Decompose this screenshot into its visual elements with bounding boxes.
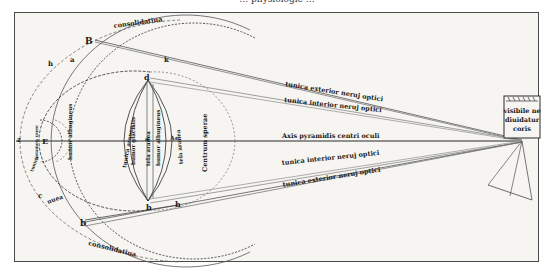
label-consolidativa-top: consolidatiua — [113, 15, 164, 30]
label-tunica-small: tunica — [29, 156, 39, 173]
point-b-lens: b — [146, 202, 152, 212]
point-z-axis: z — [17, 135, 21, 144]
label-tela-aranea-1: tela aranea — [145, 131, 151, 166]
point-h-upper: h — [48, 59, 53, 68]
label-ray-5: tunica exterior neruj optici — [282, 166, 381, 189]
eye-diagram: B k h a d b h b c E a A e z consolidatiu… — [0, 0, 554, 277]
label-humor-albugineus-left: humor albugineus — [67, 104, 74, 160]
point-b-lower: b — [80, 218, 86, 228]
label-humor-albugineus-inner: humor albugineus — [155, 110, 162, 166]
point-h-lower: h — [175, 199, 181, 209]
point-c-lower: c — [38, 191, 42, 200]
label-humor-glacialis: humor glacialis — [130, 117, 137, 165]
label-uvea: uuea — [46, 193, 64, 205]
pyramid-base — [488, 185, 532, 200]
object-box-line-3: coris — [513, 125, 531, 133]
ray-h-bottom — [85, 205, 178, 220]
label-centrum-sperae: Centrum sperae — [201, 114, 209, 172]
label-tela-aranea-2: tela aranea — [175, 129, 184, 165]
point-k: k — [164, 55, 169, 64]
pyramid-line-3 — [522, 141, 532, 200]
object-box-line-2: diuidatur — [505, 116, 540, 124]
middle-sphere-arc-right — [150, 72, 235, 141]
label-axis: Axis pyramidis centri oculi — [281, 132, 380, 140]
point-B: B — [85, 36, 93, 46]
object-box-line-1: visibile ne — [502, 107, 540, 115]
label-ray-4: tunica interior neruj optici — [281, 149, 380, 167]
label-foramen-uvee: foramen uuee — [34, 125, 39, 160]
point-a-upper: a — [70, 55, 75, 64]
point-d-lens: d — [144, 72, 150, 82]
point-E: E — [42, 136, 48, 146]
